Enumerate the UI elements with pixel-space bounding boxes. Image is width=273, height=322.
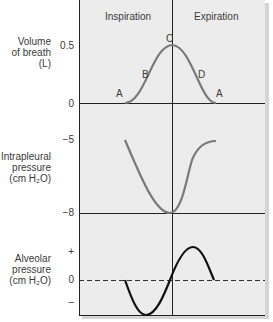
point-b: B bbox=[142, 69, 149, 80]
alveolar-axis-label: Alveolar pressure (cm H₂O) bbox=[9, 253, 51, 286]
intrapleural-tick-minus8: −8 bbox=[54, 207, 74, 218]
intrapleural-label-line3: (cm H₂O) bbox=[1, 173, 51, 184]
point-a-left: A bbox=[116, 88, 123, 99]
intrapleural-label-line1: Intrapleural bbox=[1, 151, 51, 162]
alveolar-label-line1: Alveolar bbox=[9, 253, 51, 264]
alveolar-label-line2: pressure bbox=[9, 264, 51, 275]
header-inspiration: Inspiration bbox=[105, 11, 151, 22]
intrapleural-label-line2: pressure bbox=[1, 162, 51, 173]
point-a-right: A bbox=[216, 88, 223, 99]
point-c: C bbox=[166, 33, 173, 44]
alveolar-tick-minus: – bbox=[54, 296, 74, 307]
intrapleural-tick-minus5: −5 bbox=[54, 134, 74, 145]
alveolar-tick-plus: + bbox=[54, 246, 74, 257]
volume-label-line2: of breath bbox=[12, 47, 51, 58]
volume-tick-0: 0 bbox=[54, 98, 74, 109]
alveolar-label-line3: (cm H₂O) bbox=[9, 275, 51, 286]
volume-axis-label: Volume of breath (L) bbox=[12, 36, 51, 69]
header-expiration: Expiration bbox=[194, 11, 238, 22]
volume-tick-0-5: 0.5 bbox=[54, 40, 74, 51]
volume-label-line3: (L) bbox=[12, 58, 51, 69]
volume-label-line1: Volume bbox=[12, 36, 51, 47]
alveolar-tick-zero: 0 bbox=[54, 274, 74, 285]
point-d: D bbox=[198, 69, 205, 80]
intrapleural-axis-label: Intrapleural pressure (cm H₂O) bbox=[1, 151, 51, 184]
